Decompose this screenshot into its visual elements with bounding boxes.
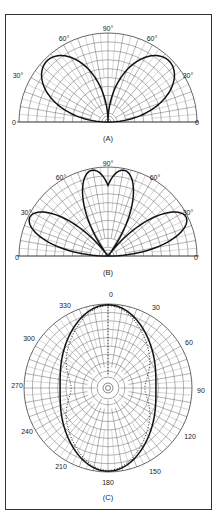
- panel-c-label-60: 60: [185, 339, 193, 346]
- panel-a-caption: (A): [103, 134, 113, 143]
- panel-b-label-left-60: 60°: [56, 174, 67, 181]
- panel-a-label-left-60: 60°: [59, 35, 70, 42]
- panel-c-label-210: 210: [55, 463, 67, 470]
- panel-a-label-top-90: 90°: [103, 25, 114, 32]
- panel-c-label-90: 90: [197, 387, 205, 394]
- panel-c-label-180: 180: [102, 479, 114, 486]
- panel-b-caption: (B): [103, 268, 113, 277]
- panel-a-label-right-0: 0: [195, 119, 199, 126]
- panel-a-label-right-60: 60°: [147, 35, 158, 42]
- panel-b-label-left-0: 0: [15, 254, 19, 261]
- panel-c-label-300: 300: [23, 335, 35, 342]
- panel-b-label-right-60: 60°: [150, 174, 161, 181]
- panel-b-label-right-0: 0: [194, 254, 198, 261]
- panel-c-label-270: 270: [11, 382, 23, 389]
- panel-c-label-120: 120: [184, 433, 196, 440]
- panel-c-label-30: 30: [152, 304, 160, 311]
- panel-b-label-left-30: 30°: [21, 209, 32, 216]
- panel-c-label-0: 0: [109, 291, 113, 298]
- panel-a-label-right-30: 30°: [183, 72, 194, 79]
- panel-a-label-left-30: 30°: [13, 72, 24, 79]
- panel-c-label-330: 330: [59, 302, 71, 309]
- panel-b-label-top-90: 90°: [103, 160, 114, 167]
- panel-b-label-right-30: 30°: [183, 209, 194, 216]
- panel-a-label-left-0: 0: [12, 119, 16, 126]
- panel-c-label-150: 150: [149, 468, 161, 475]
- panel-c-caption: (C): [103, 493, 113, 502]
- panel-c-label-240: 240: [21, 428, 33, 435]
